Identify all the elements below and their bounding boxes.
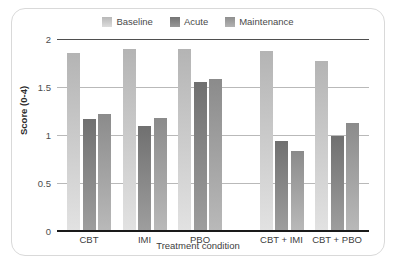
chart-card: Baseline Acute Maintenance Score (0-4) 0… — [11, 8, 385, 256]
legend-label-baseline: Baseline — [116, 17, 152, 27]
x-axis-label: Treatment condition — [12, 240, 384, 251]
bar — [260, 51, 273, 231]
plot-area: 00.511.52 CBTIMIPBOCBT + IMICBT + PBO — [57, 39, 369, 231]
bar — [123, 49, 136, 231]
x-axis-line — [57, 230, 369, 232]
y-axis-tick: 0 — [46, 226, 51, 237]
legend-item-baseline: Baseline — [102, 17, 152, 27]
legend-label-maintenance: Maintenance — [239, 17, 293, 27]
bar — [138, 126, 151, 231]
y-axis-tick: 1 — [46, 130, 51, 141]
legend-swatch-baseline — [102, 17, 112, 27]
chart-legend: Baseline Acute Maintenance — [12, 17, 384, 27]
bar — [67, 53, 80, 231]
bar — [98, 114, 111, 231]
y-axis-tick: 0.5 — [38, 178, 51, 189]
bar — [331, 136, 344, 231]
bar — [209, 79, 222, 231]
bar — [315, 61, 328, 231]
bar — [178, 49, 191, 231]
bar — [275, 141, 288, 231]
legend-label-acute: Acute — [184, 17, 208, 27]
legend-swatch-maintenance — [225, 17, 235, 27]
legend-item-acute: Acute — [170, 17, 208, 27]
legend-swatch-acute — [170, 17, 180, 27]
y-axis-tick: 2 — [46, 34, 51, 45]
bar — [346, 123, 359, 231]
bar — [194, 82, 207, 231]
bars-layer — [57, 39, 369, 231]
y-axis-label: Score (0-4) — [18, 86, 29, 135]
y-axis-tick: 1.5 — [38, 82, 51, 93]
bar — [83, 119, 96, 231]
legend-item-maintenance: Maintenance — [225, 17, 293, 27]
bar — [154, 118, 167, 231]
bar — [291, 151, 304, 231]
